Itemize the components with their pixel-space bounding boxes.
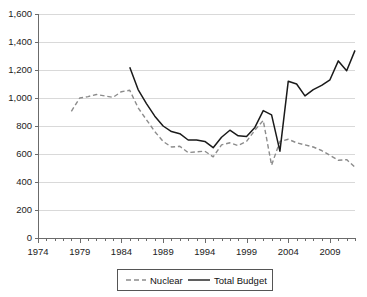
series-line-nuclear (71, 90, 355, 167)
x-axis-tick-label: 1984 (111, 246, 132, 257)
x-axis-tick-label: 1974 (27, 246, 48, 257)
x-axis-tick-label: 1994 (194, 246, 215, 257)
line-chart: 02004006008001,0001,2001,4001,600 197419… (0, 0, 367, 297)
y-axis-tick-label: 1,200 (8, 64, 32, 75)
series-group (71, 50, 355, 167)
x-axis-tick-label: 2004 (278, 246, 299, 257)
y-axis-tick-label: 600 (16, 148, 32, 159)
y-axis-tick-labels: 02004006008001,0001,2001,4001,600 (8, 8, 38, 243)
y-axis-tick-label: 800 (16, 120, 32, 131)
y-axis-tick-label: 0 (27, 232, 32, 243)
y-axis-tick-label: 1,000 (8, 92, 32, 103)
x-axis-tick-label: 1999 (236, 246, 257, 257)
gridlines-group (38, 15, 355, 211)
x-axis-tick-label: 2009 (319, 246, 340, 257)
y-axis-tick-label: 200 (16, 204, 32, 215)
x-axis-tick-label: 1989 (153, 246, 174, 257)
legend: Nuclear Total Budget (118, 270, 273, 291)
chart-container: 02004006008001,0001,2001,4001,600 197419… (0, 0, 367, 297)
x-axis-tick-labels: 19741979198419891994199920042009 (27, 246, 340, 257)
series-line-total-budget (130, 50, 355, 151)
legend-label-total-budget: Total Budget (214, 275, 267, 286)
y-axis-tick-label: 400 (16, 176, 32, 187)
y-axis-tick-label: 1,400 (8, 36, 32, 47)
x-axis-tick-label: 1979 (69, 246, 90, 257)
y-axis-tick-label: 1,600 (8, 8, 32, 19)
legend-label-nuclear: Nuclear (150, 275, 183, 286)
